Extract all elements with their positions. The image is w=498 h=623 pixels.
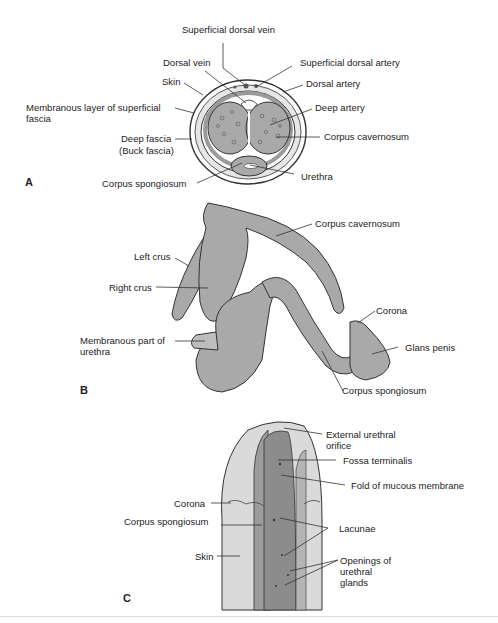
label-corpus-cavernosum-a: Corpus cavernosum	[324, 131, 409, 142]
label-membranous-layer-line1: Membranous layer of superficial	[26, 102, 161, 113]
figure-drawing	[0, 0, 498, 623]
panel-c-opened-urethra	[211, 422, 345, 610]
label-membranous-layer-line2: fascia	[26, 113, 51, 124]
label-membranous-part-line1: Membranous part of	[80, 335, 165, 346]
label-corona-c: Corona	[174, 498, 205, 509]
label-superficial-dorsal-artery: Superficial dorsal artery	[300, 57, 400, 68]
label-left-crus: Left crus	[134, 251, 170, 262]
label-deep-fascia-line2: (Buck fascia)	[119, 145, 174, 156]
label-right-crus: Right crus	[109, 282, 152, 293]
label-superficial-dorsal-vein: Superficial dorsal vein	[182, 24, 275, 35]
label-external-urethral-orifice-line2: orifice	[326, 440, 351, 451]
panel-letter-b: B	[80, 384, 88, 396]
panel-letter-c: C	[123, 592, 131, 604]
label-openings-line1: Openings of	[340, 555, 391, 566]
label-corpus-cavernosum-b: Corpus cavernosum	[315, 218, 400, 229]
label-deep-fascia-line1: Deep fascia	[121, 133, 171, 144]
label-corpus-spongiosum-c: Corpus spongiosum	[124, 516, 209, 527]
label-skin-a: Skin	[162, 76, 180, 87]
bottom-divider	[0, 616, 498, 617]
label-fossa-terminalis: Fossa terminalis	[343, 455, 412, 466]
label-dorsal-artery: Dorsal artery	[306, 78, 360, 89]
label-openings-line2: urethral	[340, 566, 372, 577]
label-corona-b: Corona	[376, 305, 407, 316]
anatomy-figure: Superficial dorsal vein Dorsal vein Supe…	[0, 0, 498, 623]
label-skin-c: Skin	[195, 551, 213, 562]
label-deep-artery: Deep artery	[315, 102, 365, 113]
label-corpus-spongiosum-b: Corpus spongiosum	[342, 385, 427, 396]
label-glans-penis: Glans penis	[405, 342, 455, 353]
label-dorsal-vein: Dorsal vein	[163, 57, 211, 68]
label-corpus-spongiosum-a: Corpus spongiosum	[102, 178, 187, 189]
label-external-urethral-orifice-line1: External urethral	[326, 429, 396, 440]
label-lacunae: Lacunae	[339, 523, 375, 534]
label-membranous-part-line2: urethra	[80, 346, 110, 357]
panel-b-erectile-bodies	[156, 203, 398, 392]
label-urethra-a: Urethra	[301, 171, 333, 182]
label-openings-line3: glands	[340, 577, 368, 588]
label-fold-mucous-membrane: Fold of mucous membrane	[351, 480, 464, 491]
panel-letter-a: A	[25, 176, 33, 188]
